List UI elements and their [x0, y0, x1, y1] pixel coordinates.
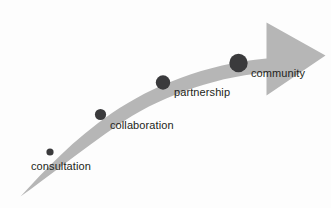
- stage-label-partnership: partnership: [174, 86, 230, 98]
- arrow-continuum-diagram: consultation collaboration partnership c…: [0, 0, 331, 208]
- stage-dot-collaboration: [95, 109, 106, 120]
- stage-dot-consultation: [46, 148, 53, 155]
- stage-label-consultation: consultation: [31, 160, 91, 172]
- diagram-canvas: consultation collaboration partnership c…: [0, 0, 331, 208]
- stage-label-community: community: [251, 67, 305, 79]
- stage-label-collaboration: collaboration: [110, 119, 174, 131]
- stage-dot-partnership: [156, 75, 170, 89]
- stage-dot-community: [229, 54, 247, 72]
